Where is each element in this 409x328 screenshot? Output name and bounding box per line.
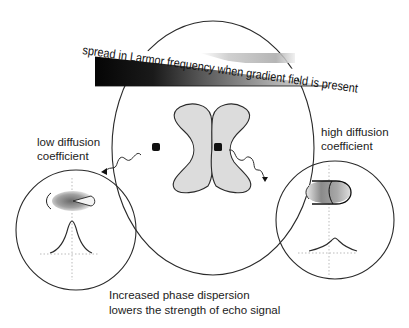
echo-peak-left (50, 221, 92, 253)
high-diffusion-inset (276, 161, 394, 279)
low-diffusion-label-line1: low diffusion (37, 135, 100, 149)
echo-caption: Increased phase dispersion lowers the st… (109, 288, 280, 318)
diffusion-diagram: spread in Larmor frequency when gradient… (0, 0, 409, 328)
high-diffusion-label-line2: coefficient (321, 139, 389, 153)
tissue-lobes (173, 104, 251, 193)
high-diffusion-label-line1: high diffusion (321, 125, 389, 139)
phase-arc-left (47, 193, 52, 209)
low-diffusion-inset (16, 170, 136, 290)
low-diffusion-label-line2: coefficient (37, 149, 100, 163)
arrow-head-left (101, 168, 107, 175)
echo-peak-right (309, 238, 357, 251)
echo-caption-line2: lowers the strength of echo signal (109, 303, 280, 318)
spin-dot-right (214, 143, 222, 151)
left-lobe (173, 104, 213, 193)
diffusion-path-left (104, 153, 141, 171)
echo-caption-line1: Increased phase dispersion (109, 288, 280, 303)
phase-distribution-right (305, 181, 351, 204)
arrow-head-right (262, 177, 268, 182)
spin-dot-left (152, 143, 160, 151)
high-diffusion-label: high diffusion coefficient (321, 125, 389, 153)
low-diffusion-label: low diffusion coefficient (37, 135, 100, 163)
larmor-frequency-wedge: spread in Larmor frequency when gradient… (82, 43, 360, 96)
